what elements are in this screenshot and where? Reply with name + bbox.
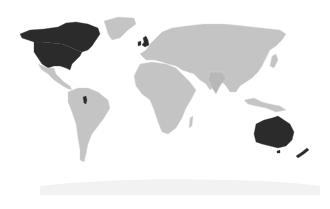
japan bbox=[270, 54, 278, 68]
southeast-asia-islands bbox=[244, 98, 286, 112]
world-map bbox=[0, 0, 330, 209]
country-new-zealand[interactable] bbox=[296, 148, 309, 158]
africa bbox=[134, 62, 196, 134]
country-ireland[interactable] bbox=[138, 41, 141, 46]
greenland bbox=[104, 17, 136, 40]
country-united-kingdom[interactable] bbox=[142, 36, 149, 47]
antarctica bbox=[40, 179, 320, 195]
country-australia-tasmania[interactable] bbox=[277, 150, 280, 153]
country-australia[interactable] bbox=[254, 116, 294, 148]
south-america bbox=[68, 88, 110, 162]
madagascar bbox=[189, 116, 193, 128]
